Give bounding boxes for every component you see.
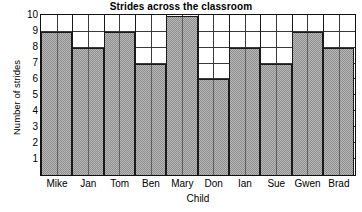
x-tick-label: Tom bbox=[104, 178, 135, 190]
x-axis-tick-labels: MikeJanTomBenMaryDonIanSueGwenBrad bbox=[40, 178, 356, 192]
x-tick-label: Don bbox=[198, 178, 229, 190]
y-tick-label: 3 bbox=[18, 122, 38, 132]
chart-title: Strides across the classroom bbox=[0, 1, 362, 12]
bar-inner-gridline bbox=[276, 65, 277, 175]
y-tick-label: 4 bbox=[18, 106, 38, 116]
bar bbox=[260, 64, 291, 175]
bar bbox=[323, 48, 354, 175]
bar-inner-gridline bbox=[182, 17, 183, 175]
y-tick-label: 7 bbox=[18, 58, 38, 68]
y-tick-label: 6 bbox=[18, 74, 38, 84]
bar bbox=[229, 48, 260, 175]
bar bbox=[41, 32, 72, 175]
bar-inner-gridline bbox=[307, 33, 308, 175]
y-tick-label: 5 bbox=[18, 90, 38, 100]
bar-inner-gridline bbox=[245, 49, 246, 175]
bar-inner-gridline bbox=[151, 65, 152, 175]
bar bbox=[292, 32, 323, 175]
y-tick-label: 1 bbox=[18, 154, 38, 164]
bar bbox=[104, 32, 135, 175]
bar-inner-gridline bbox=[339, 49, 340, 175]
x-tick-label: Gwen bbox=[292, 178, 323, 190]
x-tick-label: Mike bbox=[41, 178, 72, 190]
bar bbox=[72, 48, 103, 175]
x-tick-label: Brad bbox=[323, 178, 354, 190]
bar-inner-gridline bbox=[57, 33, 58, 175]
y-tick-label: 10 bbox=[18, 10, 38, 20]
x-tick-label: Ian bbox=[229, 178, 260, 190]
bar bbox=[166, 16, 197, 175]
bars-layer bbox=[41, 15, 355, 175]
bar-inner-gridline bbox=[213, 80, 214, 175]
bar bbox=[135, 64, 166, 175]
y-tick-label: 9 bbox=[18, 26, 38, 36]
y-tick-label: 8 bbox=[18, 42, 38, 52]
y-axis-tick-labels: 10987654321 bbox=[18, 12, 38, 176]
x-tick-label: Ben bbox=[135, 178, 166, 190]
bar-inner-gridline bbox=[88, 49, 89, 175]
y-tick-label: 2 bbox=[18, 138, 38, 148]
x-tick-label: Jan bbox=[73, 178, 104, 190]
x-tick-label: Sue bbox=[261, 178, 292, 190]
bar bbox=[198, 79, 229, 175]
bar-inner-gridline bbox=[119, 33, 120, 175]
x-tick-label: Mary bbox=[167, 178, 198, 190]
plot-area bbox=[40, 14, 356, 176]
x-axis-title: Child bbox=[40, 193, 356, 204]
